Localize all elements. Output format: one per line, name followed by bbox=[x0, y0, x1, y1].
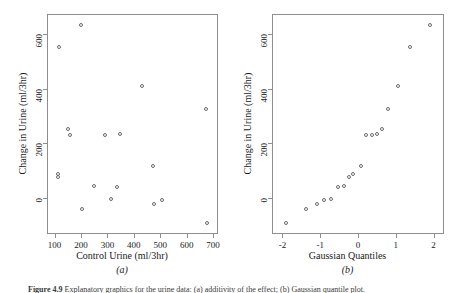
data-point bbox=[351, 172, 355, 176]
data-point bbox=[80, 207, 84, 211]
data-point bbox=[151, 164, 155, 168]
x-axis-title-b: Gaussian Quantiles bbox=[251, 250, 444, 261]
caption-number: Figure 4.9 bbox=[28, 285, 63, 293]
y-tick-label: 0 bbox=[34, 198, 44, 238]
x-tick-mark bbox=[107, 234, 108, 238]
data-point bbox=[152, 202, 156, 206]
data-point bbox=[56, 172, 60, 176]
panel-a-scatter: 1002003004005006007000200400600 Control … bbox=[0, 0, 231, 268]
plot-frame-b bbox=[272, 14, 444, 234]
data-point bbox=[204, 107, 208, 111]
plot-frame-a bbox=[47, 14, 218, 234]
data-point bbox=[140, 84, 144, 88]
x-axis-title-a: Control Urine (ml/3hr) bbox=[26, 250, 218, 261]
data-point bbox=[428, 23, 432, 27]
data-point bbox=[380, 127, 384, 131]
x-tick-label: -1 bbox=[305, 240, 335, 250]
x-tick-mark bbox=[434, 234, 435, 238]
y-tick-label: 400 bbox=[34, 89, 44, 129]
x-tick-mark bbox=[282, 234, 283, 238]
y-axis-title-a: Change in Urine (ml/3hr) bbox=[17, 54, 28, 194]
data-point bbox=[109, 197, 113, 201]
data-point bbox=[304, 207, 308, 211]
data-point bbox=[370, 133, 374, 137]
data-point bbox=[315, 202, 319, 206]
x-tick-mark bbox=[134, 234, 135, 238]
x-tick-mark bbox=[320, 234, 321, 238]
y-tick-label: 200 bbox=[259, 143, 269, 183]
panel-label-b: (b) bbox=[251, 264, 444, 275]
y-axis-title-b: Change in Urine (ml/3hr) bbox=[242, 54, 253, 194]
data-point bbox=[322, 198, 326, 202]
panel-b-qqplot: -2-10120200400600 Gaussian Quantiles Cha… bbox=[225, 0, 461, 268]
data-point bbox=[92, 184, 96, 188]
data-point bbox=[396, 84, 400, 88]
x-tick-label: 700 bbox=[198, 240, 228, 250]
data-points-b bbox=[273, 15, 443, 233]
caption-body: Explanatory graphics for the urine data:… bbox=[65, 285, 365, 293]
x-tick-mark bbox=[396, 234, 397, 238]
data-point bbox=[336, 185, 340, 189]
figure-container: 1002003004005006007000200400600 Control … bbox=[0, 0, 461, 293]
data-point bbox=[160, 198, 164, 202]
data-point bbox=[103, 133, 107, 137]
y-tick-label: 400 bbox=[259, 89, 269, 129]
x-tick-label: 1 bbox=[381, 240, 411, 250]
data-point bbox=[359, 164, 363, 168]
x-tick-mark bbox=[160, 234, 161, 238]
data-point bbox=[375, 132, 379, 136]
x-tick-label: 0 bbox=[343, 240, 373, 250]
x-tick-mark bbox=[358, 234, 359, 238]
data-point bbox=[66, 127, 70, 131]
data-point bbox=[57, 45, 61, 49]
y-tick-label: 0 bbox=[259, 198, 269, 238]
x-tick-mark bbox=[55, 234, 56, 238]
data-point bbox=[342, 184, 346, 188]
panel-label-a: (a) bbox=[26, 264, 218, 275]
data-point bbox=[408, 45, 412, 49]
figure-caption: Figure 4.9 Explanatory graphics for the … bbox=[28, 285, 438, 293]
y-tick-label: 200 bbox=[34, 143, 44, 183]
data-point bbox=[364, 133, 368, 137]
data-point bbox=[347, 175, 351, 179]
y-tick-label: 600 bbox=[34, 34, 44, 74]
data-point bbox=[386, 107, 390, 111]
x-tick-mark bbox=[81, 234, 82, 238]
data-point bbox=[79, 23, 83, 27]
data-points-a bbox=[48, 15, 217, 233]
data-point bbox=[205, 221, 209, 225]
data-point bbox=[115, 185, 119, 189]
data-point bbox=[284, 221, 288, 225]
data-point bbox=[68, 133, 72, 137]
data-point bbox=[329, 197, 333, 201]
y-tick-label: 600 bbox=[259, 34, 269, 74]
x-tick-mark bbox=[187, 234, 188, 238]
x-tick-label: 2 bbox=[419, 240, 449, 250]
data-point bbox=[118, 132, 122, 136]
x-tick-mark bbox=[213, 234, 214, 238]
x-tick-label: -2 bbox=[267, 240, 297, 250]
